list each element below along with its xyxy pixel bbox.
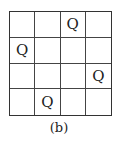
queen-cell: Q <box>10 38 35 64</box>
queens-board: QQQQ <box>9 11 112 116</box>
board-cell <box>35 38 60 64</box>
board-cell <box>10 89 35 115</box>
queen-cell: Q <box>86 64 111 90</box>
board-cell <box>35 12 60 38</box>
figure-caption: (b) <box>0 120 118 135</box>
board-cell <box>86 12 111 38</box>
queen-cell: Q <box>61 12 86 38</box>
board-cell <box>86 89 111 115</box>
board-cell <box>61 38 86 64</box>
board-cell <box>86 38 111 64</box>
board-cell <box>35 64 60 90</box>
queen-cell: Q <box>35 89 60 115</box>
board-cell <box>61 89 86 115</box>
board-cell <box>10 64 35 90</box>
board-cell <box>10 12 35 38</box>
board-cell <box>61 64 86 90</box>
